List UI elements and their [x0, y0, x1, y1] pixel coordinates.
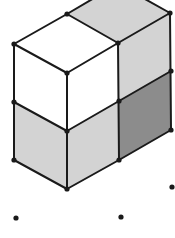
- grid-dot: [169, 184, 174, 189]
- grid-dot: [118, 214, 123, 219]
- grid-dot: [13, 215, 18, 220]
- isometric-cube-figure: [0, 0, 175, 238]
- grid-dots: [13, 184, 174, 220]
